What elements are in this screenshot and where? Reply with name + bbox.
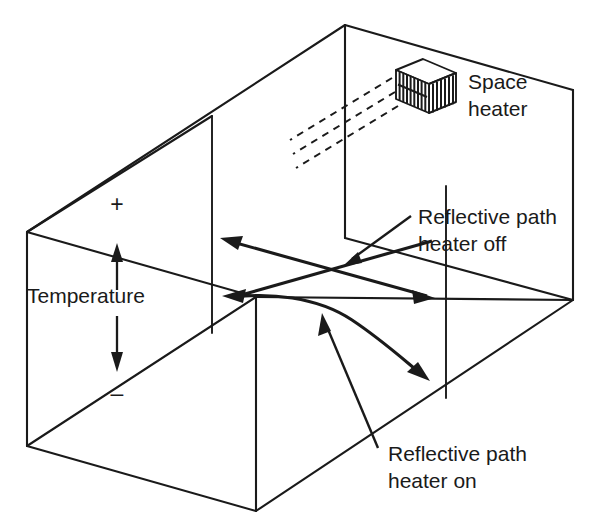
temperature-positive-sign: + — [110, 191, 123, 217]
temperature-axis-down-arrowhead — [111, 352, 123, 372]
space-heater-label-line1: Space — [468, 70, 528, 93]
temperature-axis: + – Temperature — [27, 191, 145, 406]
reflective-path-heater-on-label: Reflective path heater on — [318, 313, 527, 492]
reflective-path-on-label-line1: Reflective path — [388, 442, 527, 465]
room-edge-ceiling-back-right — [345, 25, 573, 90]
curved-path-line — [234, 296, 420, 373]
space-heater-label-line2: heater — [468, 97, 528, 120]
reflective-path-off-label-line2: heater off — [418, 232, 507, 255]
room-edge-floor-left-front — [27, 446, 256, 511]
temperature-negative-sign: – — [111, 380, 124, 406]
straight-path-arrowhead-upper-left — [220, 236, 243, 250]
reflective-path-off-label-line1: Reflective path — [418, 205, 557, 228]
space-heater-label: Space heater — [468, 70, 528, 120]
diagram-root: Reflective acoustic path in a room with … — [0, 0, 596, 527]
space-heater — [396, 59, 456, 113]
temperature-axis-label: Temperature — [27, 284, 145, 307]
reflective-path-heater-on — [222, 289, 430, 381]
heat-ray-3 — [296, 106, 398, 168]
heat-ray-1 — [290, 78, 392, 140]
reflective-path-on-label-line2: heater on — [388, 469, 477, 492]
reflective-path-on-leader-line — [327, 327, 378, 448]
room-edge-floor-diagonal-left — [27, 297, 256, 446]
straight-path-arrowhead-right — [412, 290, 435, 304]
diagram-canvas: Reflective acoustic path in a room with … — [0, 0, 596, 527]
reflective-path-heater-off — [220, 236, 435, 304]
temperature-axis-up-arrowhead — [111, 243, 123, 262]
